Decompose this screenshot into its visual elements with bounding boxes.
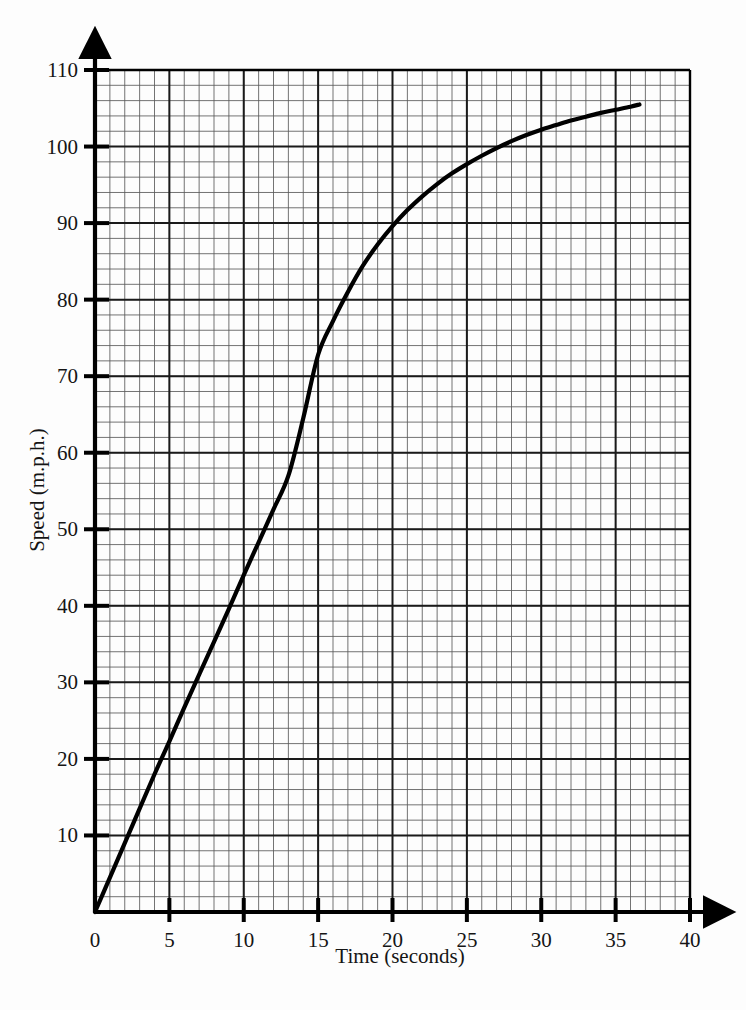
y-tick-label: 60 <box>57 441 78 465</box>
x-tick-label: 0 <box>90 928 101 952</box>
x-axis-title: Time (seconds) <box>335 944 464 968</box>
speed-time-chart: 102030405060708090100110 051015202530354… <box>0 0 746 1010</box>
y-tick-label: 30 <box>57 670 78 694</box>
y-tick-label: 50 <box>57 517 78 541</box>
x-tick-label: 10 <box>233 928 254 952</box>
y-tick-label: 80 <box>57 288 78 312</box>
y-tick-label: 20 <box>57 747 78 771</box>
y-tick-label: 100 <box>47 135 79 159</box>
chart-background <box>0 0 746 1010</box>
y-tick-label: 90 <box>57 211 78 235</box>
x-tick-label: 30 <box>531 928 552 952</box>
figure-container: 102030405060708090100110 051015202530354… <box>0 0 746 1010</box>
y-tick-label: 70 <box>57 364 78 388</box>
x-tick-label: 35 <box>605 928 626 952</box>
y-tick-label: 10 <box>57 823 78 847</box>
y-axis-title: Speed (m.p.h.) <box>25 428 49 552</box>
y-tick-label: 110 <box>47 58 78 82</box>
x-tick-label: 5 <box>164 928 175 952</box>
x-tick-label: 15 <box>308 928 329 952</box>
x-tick-label: 40 <box>680 928 701 952</box>
y-tick-label: 40 <box>57 594 78 618</box>
